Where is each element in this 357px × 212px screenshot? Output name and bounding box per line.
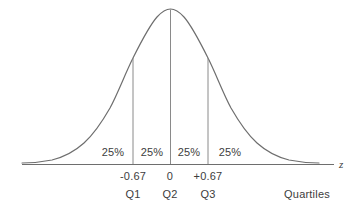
- quartile-label-q3: Q3: [193, 188, 223, 200]
- normal-distribution-figure: 25% 25% 25% 25% -0.67 0 +0.67 Q1 Q2 Q3 z…: [0, 0, 357, 212]
- region-percent-label-1: 25%: [96, 146, 130, 158]
- quartile-label-q2: Q2: [155, 188, 185, 200]
- region-percent-label-2: 25%: [135, 146, 169, 158]
- axis-variable-label-z: z: [339, 158, 343, 170]
- region-percent-label-4: 25%: [213, 146, 247, 158]
- quartiles-caption: Quartiles: [272, 188, 342, 200]
- x-tick-label-plus067: +0.67: [186, 170, 230, 182]
- region-percent-label-3: 25%: [172, 146, 206, 158]
- quartile-label-q1: Q1: [118, 188, 148, 200]
